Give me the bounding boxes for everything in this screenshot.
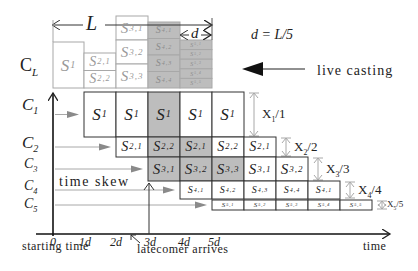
live-segment-label: S5,2 xyxy=(180,50,212,60)
bandwidth-part: /2 xyxy=(307,139,317,154)
channel-label-part: 5 xyxy=(33,205,37,214)
channel-segment-label: S5,5 xyxy=(340,200,372,210)
channel-label-part: 1 xyxy=(33,105,38,116)
segment-letter: S xyxy=(190,61,193,67)
channel-label: C2 xyxy=(22,134,38,155)
segment-letter: S xyxy=(188,185,193,195)
segment-letter: S xyxy=(185,140,192,154)
channel-segment-label: S3,1 xyxy=(244,157,276,181)
segment-letter: S xyxy=(281,162,289,177)
channel-label-part: C xyxy=(22,95,33,114)
bandwidth-part: /4 xyxy=(371,182,381,197)
segment-letter: S xyxy=(286,202,290,209)
segment-index: 3,3 xyxy=(225,165,239,174)
channel-start-arrow xyxy=(131,166,143,173)
segment-index: 5,4 xyxy=(322,203,330,207)
channel-segment-label: S2,1 xyxy=(180,137,212,157)
segment-letter: S xyxy=(185,162,193,177)
live-casting-label: live casting xyxy=(317,64,393,78)
channel-label: C4 xyxy=(24,179,38,196)
segment-letter: S xyxy=(121,140,128,154)
segment-index: 5,1 xyxy=(194,43,202,47)
segment-index: 5,5 xyxy=(354,203,362,207)
channel-segment-label: S4,1 xyxy=(308,181,340,199)
channel-segment-label: S5,3 xyxy=(276,200,308,210)
segment-letter: S xyxy=(254,202,258,209)
channel-label: C1 xyxy=(22,96,38,117)
live-segment-label: S5,1 xyxy=(180,40,212,50)
segment-letter: S xyxy=(156,75,161,85)
channel-segment-label: S4,1 xyxy=(180,181,212,199)
time-axis-label: time xyxy=(363,240,386,252)
channel-segment-label: S3,2 xyxy=(180,157,212,181)
segment-index: 1 xyxy=(166,109,172,119)
segment-index: 2,2 xyxy=(225,143,238,151)
channel-label-part: C xyxy=(24,178,33,193)
live-segment-label: S3,3 xyxy=(116,64,148,88)
segment-index: 2,1 xyxy=(257,143,270,151)
channel-label-part: C xyxy=(22,133,33,152)
bandwidth-label: X4/4 xyxy=(358,183,381,199)
segment-letter: S xyxy=(153,162,161,177)
segment-letter: S xyxy=(121,69,129,84)
segment-letter: S xyxy=(252,185,257,195)
channel-segment-label: S2,2 xyxy=(148,137,180,157)
segment-index: 4,1 xyxy=(322,187,333,193)
channel-segment-label: S3,1 xyxy=(148,157,180,181)
segment-letter: S xyxy=(121,21,129,36)
channel-label-part: 2 xyxy=(33,143,38,154)
segment-index: 1 xyxy=(102,109,108,119)
segment-letter: S xyxy=(190,80,193,86)
bandwidth-label: X5/5 xyxy=(387,200,403,211)
segment-letter: S xyxy=(217,162,225,177)
channel-segment-label: S1 xyxy=(212,92,244,137)
channel-segment-label: S1 xyxy=(148,92,180,137)
segment-letter: S xyxy=(220,106,229,123)
channel-start-arrow xyxy=(163,187,175,194)
length-label: L xyxy=(86,13,97,33)
time-skew-label: time skew xyxy=(59,175,130,189)
segment-letter: S xyxy=(190,51,193,57)
segment-index: 1 xyxy=(230,109,236,119)
channel-segment-label: S5,4 xyxy=(308,200,340,210)
channel-label: C3 xyxy=(24,157,38,174)
starting-time-label: starting time xyxy=(22,240,89,252)
segment-index: 3,1 xyxy=(257,165,271,174)
channel-live-sub: L xyxy=(32,66,38,78)
segment-index: 5,2 xyxy=(258,203,266,207)
segment-index: 4,1 xyxy=(162,27,173,33)
live-segment-label: S3,1 xyxy=(116,16,148,40)
segment-index: 5,3 xyxy=(290,203,298,207)
bandwidth-part: X xyxy=(326,161,335,176)
segment-letter: S xyxy=(249,162,257,177)
bandwidth-part: X xyxy=(358,182,367,197)
channel-start-arrow xyxy=(195,202,207,209)
segment-index: 3,3 xyxy=(129,72,143,81)
segment-letter: S xyxy=(222,202,226,209)
live-casting-arrow-head xyxy=(242,62,263,76)
channel-segment-label: S1 xyxy=(84,92,116,137)
segment-index: 4,4 xyxy=(290,187,301,193)
segment-letter: S xyxy=(121,45,129,60)
channel-segment-label: S4,4 xyxy=(276,181,308,199)
segment-index: 2,1 xyxy=(97,58,110,66)
segment-index: 5,1 xyxy=(226,203,234,207)
live-segment-label: S1 xyxy=(53,42,84,88)
segment-letter: S xyxy=(249,140,256,154)
bandwidth-part: /3 xyxy=(339,161,349,176)
channel-label-part: 3 xyxy=(33,165,37,174)
channel-label-part: 4 xyxy=(33,187,37,196)
channel-segment-label: S5,2 xyxy=(244,200,276,210)
live-segment-label: S4,1 xyxy=(148,22,180,39)
live-segment-label: S2,1 xyxy=(84,53,116,71)
channel-segment-label: S4,3 xyxy=(244,181,276,199)
segment-index: 3,2 xyxy=(289,165,303,174)
segment-index: 4,1 xyxy=(194,187,205,193)
segment-letter: S xyxy=(284,185,289,195)
segment-index: 1 xyxy=(134,109,140,119)
segment-letter: S xyxy=(153,140,160,154)
bandwidth-part: X xyxy=(294,139,303,154)
channel-live-label: CL xyxy=(20,56,38,78)
channel-label-part: C xyxy=(24,196,33,211)
live-segment-label: S5,5 xyxy=(180,78,212,88)
